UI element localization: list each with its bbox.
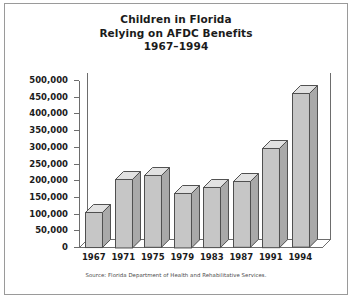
plot-floor-right-edge bbox=[322, 239, 331, 248]
y-axis-label: 100,000 bbox=[29, 209, 68, 219]
x-axis-label: 1994 bbox=[288, 252, 312, 262]
y-axis-label: 300,000 bbox=[29, 142, 68, 152]
bar-column bbox=[144, 167, 171, 240]
x-axis-label: 1991 bbox=[259, 252, 283, 262]
bar-column bbox=[262, 140, 289, 240]
x-axis-label: 1967 bbox=[82, 252, 106, 262]
y-axis-label: 150,000 bbox=[29, 192, 68, 202]
y-axis-label: 500,000 bbox=[29, 75, 68, 85]
y-axis-tick bbox=[74, 230, 79, 231]
source-note: Source: Florida Department of Health and… bbox=[5, 272, 347, 278]
plot-area: 050,000100,000150,000200,000250,000300,0… bbox=[79, 73, 331, 248]
y-axis-tick bbox=[74, 247, 79, 248]
y-axis-tick bbox=[74, 80, 79, 81]
bar-column bbox=[174, 185, 201, 240]
y-axis-tick bbox=[74, 197, 79, 198]
y-axis-label: 450,000 bbox=[29, 92, 68, 102]
chart-title: Children in Florida Relying on AFDC Bene… bbox=[5, 13, 347, 54]
y-axis-tick bbox=[74, 147, 79, 148]
y-axis-tick bbox=[74, 97, 79, 98]
chart-title-line-1: Children in Florida bbox=[5, 13, 347, 27]
y-axis-tick bbox=[74, 214, 79, 215]
y-axis-tick bbox=[74, 180, 79, 181]
bar-column bbox=[233, 173, 260, 240]
x-axis-label: 1987 bbox=[229, 252, 253, 262]
y-axis-label: 350,000 bbox=[29, 125, 68, 135]
x-axis-label: 1975 bbox=[141, 252, 165, 262]
y-axis-label: 400,000 bbox=[29, 108, 68, 118]
y-axis-tick bbox=[74, 113, 79, 114]
chart-title-line-2: Relying on AFDC Benefits bbox=[5, 27, 347, 41]
x-axis-label: 1971 bbox=[111, 252, 135, 262]
y-axis-label: 50,000 bbox=[35, 225, 68, 235]
y-axis-line bbox=[79, 81, 80, 248]
bar-column bbox=[115, 171, 142, 240]
y-axis-label: 200,000 bbox=[29, 175, 68, 185]
chart-title-line-3: 1967–1994 bbox=[5, 40, 347, 54]
bar-column bbox=[203, 179, 230, 240]
bar-column bbox=[85, 204, 112, 240]
y-axis-label: 250,000 bbox=[29, 159, 68, 169]
y-axis-tick bbox=[74, 164, 79, 165]
y-axis-label: 0 bbox=[62, 242, 68, 252]
x-axis-label: 1983 bbox=[200, 252, 224, 262]
chart-card: Children in Florida Relying on AFDC Bene… bbox=[4, 3, 348, 295]
x-axis-label: 1979 bbox=[170, 252, 194, 262]
bar-column bbox=[292, 85, 319, 240]
y-axis-tick bbox=[74, 130, 79, 131]
